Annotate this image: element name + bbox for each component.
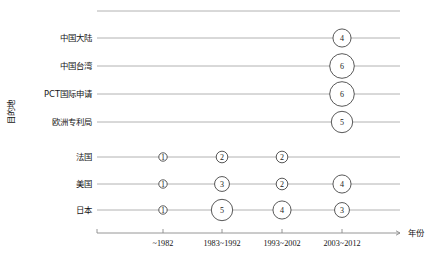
bubble-point[interactable]: 2 — [276, 151, 288, 163]
bubble-point[interactable]: 3 — [215, 177, 230, 192]
axis — [97, 229, 400, 235]
bubble-value-label: 6 — [340, 90, 344, 99]
x-axis-tick-labels: ~19821983~19921993~20022003~2012 — [153, 239, 361, 248]
bubble-value-label: 2 — [280, 153, 284, 162]
bubble-point[interactable]: 5 — [331, 111, 352, 132]
bubble-value-label: 4 — [340, 34, 344, 43]
bubble-value-label: 5 — [220, 206, 224, 215]
bubble-value-label: 3 — [340, 206, 344, 215]
bubble-point[interactable]: 1 — [159, 206, 167, 215]
x-axis-tick-label: ~1982 — [153, 239, 174, 248]
bubble-value-label: 2 — [220, 153, 224, 162]
bubble-point[interactable]: 4 — [333, 175, 351, 193]
bubble-value-label: 1 — [161, 206, 165, 215]
y-axis-label: PCT国际申请 — [44, 89, 93, 99]
x-axis-tick-label: 1993~2002 — [263, 239, 300, 248]
y-axis-label: 中国台湾 — [60, 61, 93, 71]
bubble-point[interactable]: 6 — [330, 54, 355, 79]
bubble-point[interactable]: 2 — [276, 178, 288, 190]
bubble-point[interactable]: 4 — [273, 201, 291, 219]
bubble-point[interactable]: 5 — [211, 199, 232, 220]
y-axis-label: 美国 — [76, 179, 92, 189]
bubble-value-label: 4 — [280, 206, 284, 215]
y-axis-label: 欧洲专利局 — [52, 117, 92, 127]
chart-canvas: 中国大陆中国台湾PCT国际申请欧洲专利局法国美国日本 ~19821983~199… — [0, 0, 439, 258]
bubble-value-label: 2 — [280, 180, 284, 189]
y-axis-label: 中国大陆 — [60, 33, 93, 43]
x-axis-tick-label: 1983~1992 — [203, 239, 240, 248]
bubble-value-label: 3 — [220, 180, 224, 189]
bubble-value-label: 1 — [161, 153, 165, 162]
bubble-point[interactable]: 4 — [333, 29, 351, 47]
y-axis-title: 目的地 — [6, 99, 16, 124]
x-axis-tick-label: 2003~2012 — [323, 239, 360, 248]
bubble-value-label: 4 — [340, 180, 344, 189]
gridlines — [97, 11, 400, 210]
bubble-value-label: 6 — [340, 62, 344, 71]
bubble-point[interactable]: 1 — [159, 180, 167, 189]
x-axis-title: 年份 — [408, 228, 425, 238]
y-axis-labels: 中国大陆中国台湾PCT国际申请欧洲专利局法国美国日本 — [44, 33, 93, 215]
bubble-point[interactable]: 1 — [159, 153, 167, 162]
y-axis-label: 法国 — [76, 152, 92, 162]
bubble-point[interactable]: 3 — [335, 203, 350, 218]
bubble-value-label: 1 — [161, 180, 165, 189]
bubble-point[interactable]: 6 — [330, 82, 355, 107]
data-bubbles: 466512213241543 — [159, 29, 355, 221]
bubble-point[interactable]: 2 — [216, 151, 228, 163]
bubble-chart: 中国大陆中国台湾PCT国际申请欧洲专利局法国美国日本 ~19821983~199… — [0, 0, 439, 258]
y-axis-label: 日本 — [76, 205, 93, 215]
bubble-value-label: 5 — [340, 118, 344, 127]
